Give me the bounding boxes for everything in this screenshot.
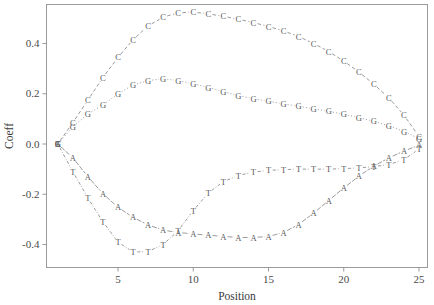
series-segment [92,107,100,112]
data-point-marker-C: C [251,18,257,28]
data-point-marker-C: C [100,73,106,83]
series-segment [378,165,385,166]
data-point-marker-C: C [281,26,287,36]
data-point-marker-G: G [100,100,106,110]
series-segment [197,234,204,235]
x-tick-label: 15 [263,273,275,285]
series-segment [137,82,144,84]
data-point-marker-G: G [296,101,302,111]
x-tick-label: 25 [414,273,426,285]
series-segment [121,210,129,215]
series-segment [243,173,250,174]
series-segment [393,127,400,130]
data-point-marker-A: A [205,230,212,240]
series-segment [212,236,219,237]
data-point-marker-A: A [130,212,137,222]
data-point-marker-A: A [235,233,242,243]
series-segment [303,107,310,108]
data-point-marker-T: T [85,193,91,203]
y-tick-label: -0.4 [22,238,40,250]
series-C: CCCCCCCCCCCCCCCCCCCCCCCCC [55,7,422,149]
data-point-marker-C: C [205,9,211,19]
series-segment [137,219,145,223]
data-point-marker-G: G [371,116,377,126]
series-segment [302,216,310,222]
data-point-marker-T: T [251,167,257,177]
data-point-marker-G: G [175,76,181,86]
data-point-marker-G: G [85,109,91,119]
series-segment [393,161,400,163]
series-segment [197,85,204,87]
series-segment [106,197,115,205]
series-segment [182,233,189,234]
y-tick-label: 0.4 [26,37,40,49]
x-axis-title: Position [218,290,256,302]
series-segment [197,13,204,14]
data-point-marker-A: A [250,233,257,243]
data-point-marker-T: T [296,164,302,174]
data-point-marker-T: T [311,164,317,174]
series-segment [393,153,400,156]
data-point-marker-C: C [145,21,151,31]
y-axis-title: Coeff [3,123,15,149]
data-point-marker-G: G [341,109,347,119]
series-segment [377,87,386,95]
series-layer: CCCCCCCCCCCCCCCCCCCCCCCCCGGGGGGGGGGGGGGG… [55,7,423,257]
data-point-marker-G: G [386,121,392,131]
data-point-marker-T: T [115,237,121,247]
data-point-marker-C: C [341,56,347,66]
series-segment [408,147,415,150]
chart-figure: 0.40.20.0-0.2-0.4 510152025 CCCCCCCCCCCC… [0,0,434,305]
data-point-marker-C: C [236,14,242,24]
data-point-marker-T: T [281,165,287,175]
data-point-marker-A: A [220,232,227,242]
data-point-marker-A: A [356,171,363,181]
series-segment [152,246,159,249]
series-A: AAAAAAAAAAAAAAAAAAAAAAAAA [55,139,423,242]
series-segment [61,147,70,155]
data-point-marker-G: G [401,127,407,137]
series-segment [362,168,370,173]
data-point-marker-G: G [70,122,76,132]
data-point-marker-T: T [161,240,167,250]
x-tick-label: 20 [338,273,350,285]
y-tick-label: 0.0 [26,138,40,150]
data-point-marker-C: C [130,35,136,45]
series-segment [273,28,280,30]
data-point-marker-T: T [100,217,106,227]
series-segment [91,180,100,191]
y-tick-label: -0.2 [22,188,39,200]
series-segment [106,96,114,102]
data-point-marker-C: C [326,47,332,57]
data-point-marker-G: G [130,80,136,90]
x-tick-label: 5 [115,273,121,285]
x-axis-ticks: 510152025 [115,268,425,285]
series-segment [105,225,115,238]
data-point-marker-G: G [265,96,271,106]
series-segment [347,64,355,70]
data-point-marker-T: T [221,177,227,187]
data-point-marker-T: T [236,171,242,181]
data-point-marker-A: A [190,229,197,239]
data-point-marker-A: A [175,228,182,238]
data-point-marker-G: G [160,74,166,84]
series-G: GGGGGGGGGGGGGGGGGGGGGGGGG [55,74,422,149]
data-point-marker-G: G [356,113,362,123]
series-segment [75,161,85,173]
data-point-marker-A: A [311,208,318,218]
data-point-marker-G: G [145,76,151,86]
series-segment [333,112,340,113]
data-point-marker-T: T [266,165,272,175]
series-segment [243,96,250,97]
data-point-marker-A: A [265,232,272,242]
data-point-marker-C: C [115,52,121,62]
data-point-marker-C: C [221,11,227,21]
series-segment [90,202,101,219]
series-segment [212,184,220,190]
data-point-marker-G: G [250,94,256,104]
series-segment [121,244,129,249]
data-point-marker-T: T [326,164,332,174]
series-segment [196,196,206,207]
series-segment [121,43,131,54]
data-point-marker-G: G [205,83,211,93]
